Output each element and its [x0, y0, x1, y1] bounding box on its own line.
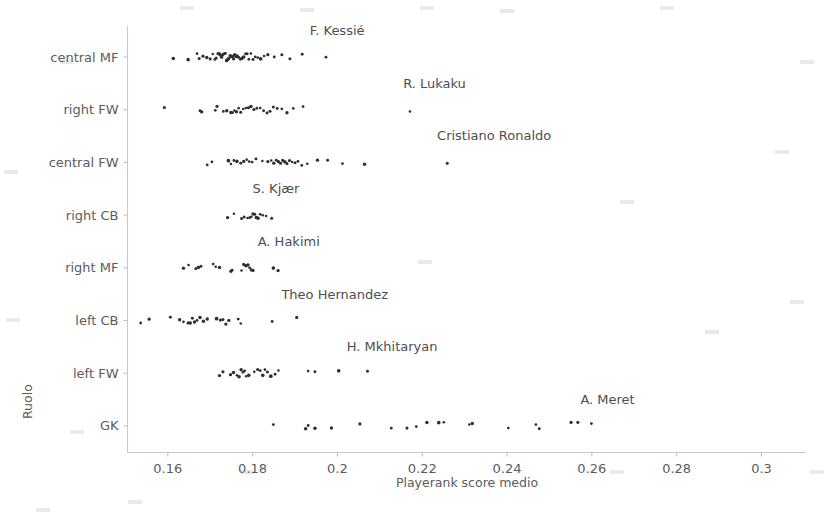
data-point — [252, 108, 255, 111]
data-point — [272, 105, 275, 108]
scan-speck — [610, 470, 624, 474]
data-point — [442, 421, 445, 424]
data-point — [247, 374, 251, 378]
data-point — [259, 213, 262, 216]
x-tick-label: 0.28 — [662, 461, 691, 476]
data-point — [242, 160, 245, 163]
data-point — [225, 109, 229, 113]
data-point — [576, 421, 579, 424]
data-point — [206, 164, 209, 167]
data-point — [270, 217, 273, 220]
data-point — [538, 427, 541, 430]
data-point — [255, 107, 258, 110]
annotation-label: R. Lukaku — [403, 76, 466, 91]
data-point — [468, 423, 471, 426]
data-point — [205, 317, 209, 321]
data-point — [330, 426, 333, 429]
x-tick-label: 0.16 — [153, 461, 182, 476]
annotation-label: F. Kessié — [310, 23, 365, 38]
data-point — [263, 55, 266, 58]
data-point — [437, 421, 441, 425]
annotation-label: Theo Hernandez — [280, 287, 388, 302]
data-point — [261, 374, 265, 378]
data-point — [214, 109, 217, 112]
data-point — [250, 216, 253, 219]
scan-speck — [36, 508, 50, 512]
data-point — [279, 162, 282, 165]
scan-speck — [128, 500, 142, 504]
annotation-label: S. Kjær — [253, 181, 300, 196]
y-tick-label: central MF — [50, 50, 118, 65]
data-point — [239, 162, 242, 165]
data-point — [266, 160, 269, 163]
data-point — [232, 57, 235, 60]
data-point — [245, 107, 248, 110]
data-point — [243, 370, 246, 373]
data-point — [304, 427, 308, 431]
data-point — [248, 160, 251, 163]
data-point — [274, 373, 277, 376]
scan-speck — [180, 6, 194, 10]
data-point — [239, 111, 242, 114]
data-point — [405, 427, 408, 430]
annotation-label: A. Meret — [580, 392, 634, 407]
data-point — [300, 164, 303, 167]
data-point — [316, 159, 319, 162]
data-point — [221, 370, 224, 373]
scan-speck — [420, 6, 434, 10]
data-point — [232, 371, 235, 374]
data-point — [218, 266, 221, 269]
data-point — [307, 424, 310, 427]
data-point — [187, 264, 190, 267]
data-point — [272, 266, 276, 270]
y-tick-label: GK — [100, 418, 119, 433]
data-point — [219, 319, 222, 322]
data-point — [358, 422, 361, 425]
data-point — [297, 160, 300, 163]
data-point — [409, 110, 412, 113]
data-point — [341, 162, 344, 165]
data-point — [239, 368, 242, 371]
y-tick-label: right CB — [66, 208, 119, 223]
data-point — [215, 105, 218, 108]
data-point — [221, 318, 224, 321]
data-point — [240, 217, 243, 220]
data-point — [590, 422, 593, 425]
data-point — [231, 111, 234, 114]
data-point — [243, 216, 246, 219]
data-point — [182, 321, 185, 324]
data-point — [313, 427, 317, 431]
data-point — [280, 53, 283, 56]
data-point — [215, 56, 218, 59]
data-point — [425, 421, 428, 424]
data-point — [301, 53, 304, 56]
data-point — [237, 107, 240, 110]
data-point — [198, 316, 202, 320]
data-point — [227, 159, 231, 163]
data-point — [285, 111, 288, 114]
scan-speck — [500, 9, 514, 13]
x-tick-label: 0.24 — [493, 461, 522, 476]
data-point — [246, 52, 249, 55]
data-point — [266, 112, 269, 115]
data-point — [366, 370, 369, 373]
y-tick-label: left FW — [73, 366, 119, 381]
x-tick-label: 0.3 — [751, 461, 772, 476]
data-point — [227, 319, 230, 322]
data-point — [271, 320, 274, 323]
annotation-label: H. Mkhitaryan — [347, 339, 438, 354]
data-point — [169, 316, 172, 319]
data-point — [249, 105, 253, 109]
data-point — [446, 162, 449, 165]
data-point — [363, 163, 366, 166]
scan-speck — [300, 8, 314, 12]
data-point — [253, 213, 256, 216]
data-point — [139, 322, 142, 325]
data-point — [215, 317, 219, 321]
data-point — [237, 318, 240, 321]
data-point — [255, 157, 258, 160]
data-point — [262, 109, 265, 112]
data-point — [285, 162, 288, 165]
data-point — [229, 373, 232, 376]
data-point — [256, 217, 259, 220]
